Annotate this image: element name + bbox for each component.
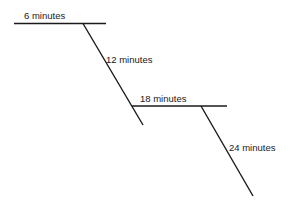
label-6-minutes: 6 minutes: [24, 11, 65, 21]
diagram-canvas: 6 minutes 12 minutes 18 minutes 24 minut…: [0, 0, 290, 210]
staircase-lines: [0, 0, 290, 210]
label-18-minutes: 18 minutes: [140, 94, 186, 104]
label-12-minutes: 12 minutes: [106, 55, 152, 65]
diagonal-segment-1: [83, 24, 143, 126]
label-24-minutes: 24 minutes: [229, 143, 275, 153]
